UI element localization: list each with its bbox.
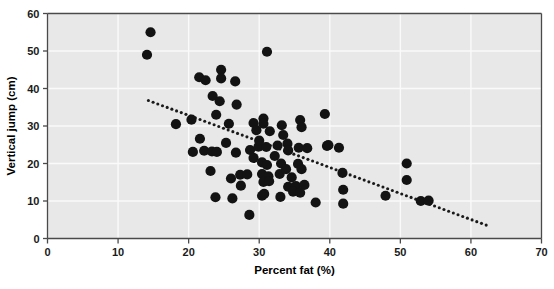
y-axis-title: Vertical jump (cm)	[5, 76, 17, 175]
x-tick-label: 10	[112, 246, 124, 258]
data-point	[338, 185, 348, 195]
data-point	[270, 151, 280, 161]
y-tick-label: 40	[27, 83, 39, 95]
trendline-dot	[433, 205, 436, 208]
trendline-dot	[471, 218, 474, 221]
trendline-dot	[456, 213, 459, 216]
trendline-dot	[156, 102, 159, 105]
trendline-dot	[466, 217, 469, 220]
data-point	[262, 47, 272, 57]
trendline-dot	[372, 182, 375, 185]
x-tick-label: 40	[324, 246, 336, 258]
trendline-dot	[320, 163, 323, 166]
data-point	[244, 210, 254, 220]
trendline-dot	[349, 173, 352, 176]
trendline-dot	[447, 210, 450, 213]
trendline-dot	[184, 113, 187, 116]
trendline-dot	[231, 130, 234, 133]
data-point	[423, 196, 433, 206]
data-point	[380, 191, 390, 201]
trendline-dot	[203, 120, 206, 123]
data-point	[277, 120, 287, 130]
data-point	[221, 138, 231, 148]
x-tick-label: 20	[183, 246, 195, 258]
data-point	[210, 192, 220, 202]
trendline-dot	[400, 192, 403, 195]
data-point	[200, 75, 210, 85]
trendline-dot	[442, 208, 445, 211]
y-tick-label: 60	[27, 8, 39, 20]
trendline-dot	[198, 118, 201, 121]
y-tick-label: 20	[27, 158, 39, 170]
trendline-dot	[297, 154, 300, 157]
data-point	[275, 192, 285, 202]
data-point	[230, 76, 240, 86]
data-point	[338, 199, 348, 209]
y-tick-label: 0	[33, 233, 39, 245]
data-point	[302, 143, 312, 153]
data-point	[254, 136, 264, 146]
data-point	[262, 160, 272, 170]
data-point	[272, 140, 282, 150]
data-point	[186, 115, 196, 125]
x-axis-title: Percent fat (%)	[254, 264, 335, 276]
scatter-plot-figure: 0102030405060010203040506070Percent fat …	[0, 0, 554, 289]
trendline-dot	[325, 165, 328, 168]
trendline-dot	[152, 101, 155, 104]
trendline-dot	[353, 175, 356, 178]
trendline-dot	[147, 99, 150, 102]
data-point	[402, 175, 412, 185]
data-point	[205, 166, 215, 176]
x-tick-label: 30	[253, 246, 265, 258]
trendline-dot	[213, 123, 216, 126]
data-point	[232, 100, 242, 110]
data-point	[295, 188, 305, 198]
trendline-dot	[161, 104, 164, 107]
data-point	[231, 148, 241, 158]
data-point	[296, 164, 306, 174]
y-tick-label: 10	[27, 195, 39, 207]
trendline-dot	[245, 135, 248, 138]
data-point	[195, 134, 205, 144]
data-point	[226, 173, 236, 183]
trendline-dot	[175, 109, 178, 112]
trendline-dot	[438, 206, 441, 209]
data-point	[142, 50, 152, 60]
trendline-dot	[306, 158, 309, 161]
trendline-dot	[381, 185, 384, 188]
trendline-dot	[250, 137, 253, 140]
trendline-dot	[236, 132, 239, 135]
trendline-dot	[480, 222, 483, 225]
trendline-dot	[485, 224, 488, 227]
trendline-dot	[170, 108, 173, 111]
x-tick-label: 50	[394, 246, 406, 258]
trendline-dot	[391, 189, 394, 192]
data-point	[188, 147, 198, 157]
trendline-dot	[367, 180, 370, 183]
trendline-dot	[222, 127, 225, 130]
data-point	[216, 73, 226, 83]
trendline-dot	[377, 184, 380, 187]
data-point	[259, 189, 269, 199]
data-point	[248, 153, 258, 163]
trendline-dot	[410, 196, 413, 199]
trendline-dot	[292, 153, 295, 156]
data-point	[145, 27, 155, 37]
data-point	[264, 176, 274, 186]
trendline-dot	[335, 168, 338, 171]
x-tick-label: 0	[44, 246, 50, 258]
trendline-dot	[217, 125, 220, 128]
data-point	[278, 130, 288, 140]
trendline-dot	[208, 121, 211, 124]
y-tick-label: 50	[27, 45, 39, 57]
trendline-dot	[386, 187, 389, 190]
data-point	[323, 140, 333, 150]
trendline-dot	[475, 220, 478, 223]
data-point	[402, 158, 412, 168]
data-point	[296, 122, 306, 132]
trendline-dot	[302, 156, 305, 159]
trendline-dot	[363, 179, 366, 182]
data-point	[283, 145, 293, 155]
data-point	[251, 125, 261, 135]
trendline-dot	[316, 161, 319, 164]
